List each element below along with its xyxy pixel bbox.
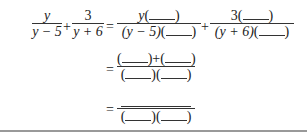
- denominator: (y + 6)(): [210, 24, 294, 39]
- fraction-rhs-2: 3() (y + 6)(): [210, 8, 294, 39]
- numerator: y: [32, 8, 62, 23]
- denominator: (y − 5)(): [117, 24, 201, 39]
- numerator: 3(): [210, 8, 294, 23]
- blank-input[interactable]: [161, 109, 187, 121]
- blank-input[interactable]: [243, 8, 269, 20]
- plus-sign: +: [63, 19, 71, 34]
- equals-sign: =: [106, 102, 114, 117]
- fraction-3-over-y-plus-6: 3 y + 6: [72, 8, 104, 39]
- fraction-y-over-y-minus-5: y y − 5: [32, 8, 62, 39]
- denominator: y + 6: [72, 24, 104, 39]
- denominator: ()(): [117, 109, 195, 124]
- blank-input[interactable]: [122, 51, 148, 63]
- blank-input[interactable]: [165, 51, 191, 63]
- fraction-combined: ()+() ()(): [117, 51, 195, 82]
- plus-sign: +: [201, 19, 209, 34]
- divider-line: [0, 130, 307, 132]
- numerator: [117, 93, 195, 108]
- numerator: 3: [72, 8, 104, 23]
- fraction-final: ()(): [117, 93, 195, 124]
- blank-input[interactable]: [259, 24, 285, 36]
- blank-input[interactable]: [149, 8, 175, 20]
- blank-input[interactable]: [125, 67, 151, 79]
- numerator: ()+(): [117, 51, 195, 66]
- denominator: y − 5: [32, 24, 62, 39]
- blank-input[interactable]: [125, 109, 151, 121]
- blank-input[interactable]: [121, 93, 191, 107]
- fraction-rhs-1: y() (y − 5)(): [117, 8, 201, 39]
- equals-sign: =: [106, 19, 114, 34]
- numerator: y(): [117, 8, 201, 23]
- blank-input[interactable]: [161, 67, 187, 79]
- blank-input[interactable]: [166, 24, 192, 36]
- equals-sign: =: [106, 62, 114, 77]
- denominator: ()(): [117, 67, 195, 82]
